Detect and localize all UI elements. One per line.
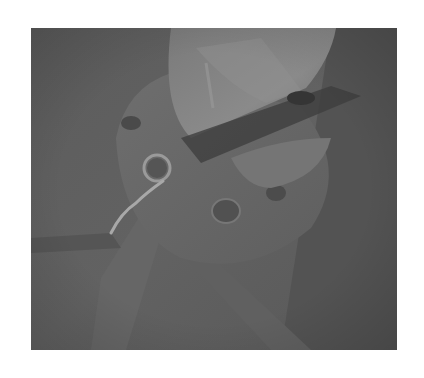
mechanical-joint-photo [31, 28, 397, 350]
photo-rendering [31, 28, 397, 350]
